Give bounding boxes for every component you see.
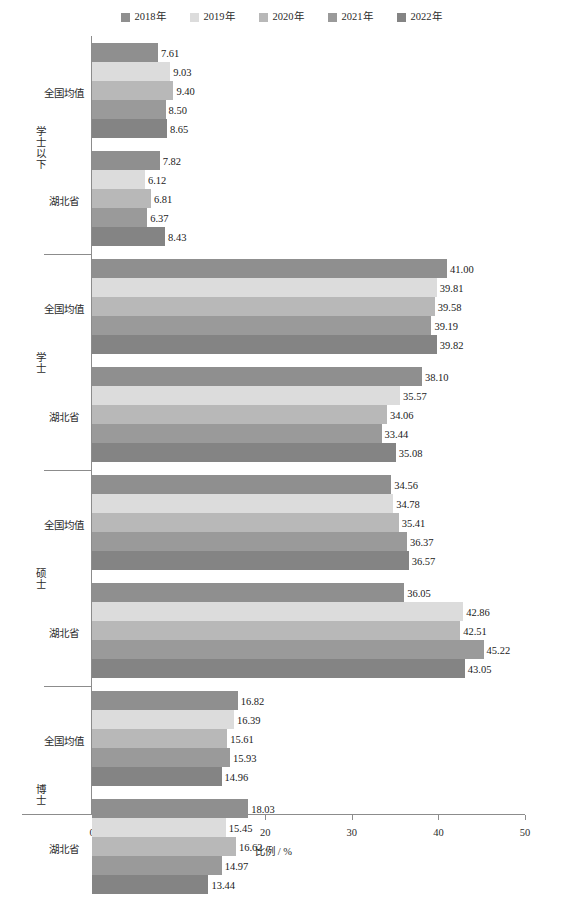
- legend-item[interactable]: 2021年: [328, 12, 373, 23]
- bar[interactable]: [92, 640, 484, 659]
- bar-row: 18.03: [92, 799, 542, 818]
- bar[interactable]: [92, 799, 248, 818]
- subgroup-label: 湖北省: [40, 193, 88, 208]
- bar[interactable]: [92, 691, 238, 710]
- bar-row: 14.97: [92, 856, 542, 875]
- bar-value-label: 16.39: [234, 714, 261, 725]
- bar-row: 8.65: [92, 119, 542, 138]
- bar[interactable]: [92, 43, 158, 62]
- bar-value-label: 18.03: [248, 803, 275, 814]
- bar-row: 39.19: [92, 316, 542, 335]
- bar-group: 博士全国均值16.8216.3915.6115.9314.96湖北省18.031…: [22, 686, 542, 902]
- legend-swatch-icon: [397, 13, 406, 22]
- bar[interactable]: [92, 367, 422, 386]
- legend-label: 2018年: [135, 12, 166, 23]
- bar-value-label: 7.61: [158, 47, 179, 58]
- bar-subgroup: 湖北省38.1035.5734.0633.4435.08: [22, 362, 542, 470]
- bar-row: 15.93: [92, 748, 542, 767]
- bar[interactable]: [92, 297, 435, 316]
- bar[interactable]: [92, 551, 409, 570]
- bar-row: 39.81: [92, 278, 542, 297]
- bar[interactable]: [92, 316, 431, 335]
- bar-value-label: 34.78: [393, 498, 420, 509]
- bar[interactable]: [92, 659, 465, 678]
- legend-item[interactable]: 2019年: [190, 12, 235, 23]
- bar[interactable]: [92, 405, 387, 424]
- bar-value-label: 9.40: [173, 85, 194, 96]
- bar[interactable]: [92, 227, 165, 246]
- bar-value-label: 15.61: [227, 733, 254, 744]
- bar-row: 41.00: [92, 259, 542, 278]
- bar[interactable]: [92, 583, 404, 602]
- bar-row: 42.51: [92, 621, 542, 640]
- legend-swatch-icon: [259, 13, 268, 22]
- bar-value-label: 8.50: [166, 104, 187, 115]
- bar-value-label: 42.51: [460, 625, 487, 636]
- bar-row: 15.45: [92, 818, 542, 837]
- bar[interactable]: [92, 748, 230, 767]
- bar-value-label: 38.10: [422, 371, 449, 382]
- bar-value-label: 6.12: [145, 174, 166, 185]
- bar-row: 36.37: [92, 532, 542, 551]
- bar-subgroup: 全国均值34.5634.7835.4136.3736.57: [22, 470, 542, 578]
- bar-value-label: 36.05: [404, 587, 431, 598]
- legend-label: 2020年: [273, 12, 304, 23]
- bar[interactable]: [92, 513, 399, 532]
- bar-row: 6.81: [92, 189, 542, 208]
- bar[interactable]: [92, 602, 463, 621]
- bar[interactable]: [92, 818, 226, 837]
- legend-swatch-icon: [121, 13, 130, 22]
- bar[interactable]: [92, 170, 145, 189]
- bar[interactable]: [92, 443, 396, 462]
- legend-swatch-icon: [328, 13, 337, 22]
- bar[interactable]: [92, 119, 167, 138]
- bar-row: 38.10: [92, 367, 542, 386]
- bar[interactable]: [92, 856, 222, 875]
- bar[interactable]: [92, 621, 460, 640]
- legend-label: 2021年: [342, 12, 373, 23]
- bar-row: 15.61: [92, 729, 542, 748]
- bar-value-label: 35.41: [399, 517, 426, 528]
- bar-value-label: 45.22: [484, 644, 511, 655]
- subgroup-label: 全国均值: [40, 301, 88, 316]
- bar[interactable]: [92, 335, 437, 354]
- legend-item[interactable]: 2020年: [259, 12, 304, 23]
- chart-page: 2018年2019年2020年2021年2022年 01020304050 学士…: [0, 0, 562, 905]
- bar[interactable]: [92, 100, 166, 119]
- legend-item[interactable]: 2018年: [121, 12, 166, 23]
- bar[interactable]: [92, 259, 447, 278]
- bar[interactable]: [92, 767, 222, 786]
- bar-row: 35.41: [92, 513, 542, 532]
- bar-value-label: 8.43: [165, 231, 186, 242]
- bar-subgroup: 全国均值41.0039.8139.5839.1939.82: [22, 254, 542, 362]
- bar-value-label: 39.58: [435, 301, 462, 312]
- bar[interactable]: [92, 475, 391, 494]
- bar-row: 8.43: [92, 227, 542, 246]
- bar[interactable]: [92, 875, 208, 894]
- bar[interactable]: [92, 532, 407, 551]
- bar-row: 33.44: [92, 424, 542, 443]
- bar-value-label: 35.57: [400, 390, 427, 401]
- bar[interactable]: [92, 62, 170, 81]
- bar[interactable]: [92, 189, 151, 208]
- bar-row: 9.03: [92, 62, 542, 81]
- bar[interactable]: [92, 424, 382, 443]
- x-axis-label: 比例 / %: [22, 843, 525, 858]
- bar[interactable]: [92, 151, 160, 170]
- bar[interactable]: [92, 710, 234, 729]
- bar-value-label: 35.08: [396, 447, 423, 458]
- bar[interactable]: [92, 81, 173, 100]
- bar-row: 8.50: [92, 100, 542, 119]
- bar[interactable]: [92, 386, 400, 405]
- subgroup-label: 全国均值: [40, 85, 88, 100]
- bar[interactable]: [92, 494, 393, 513]
- legend-item[interactable]: 2022年: [397, 12, 442, 23]
- bar-value-label: 41.00: [447, 263, 474, 274]
- bar-value-label: 33.44: [382, 428, 409, 439]
- bar-value-label: 6.81: [151, 193, 172, 204]
- bar-value-label: 15.93: [230, 752, 257, 763]
- bar[interactable]: [92, 729, 227, 748]
- legend-swatch-icon: [190, 13, 199, 22]
- bar[interactable]: [92, 278, 437, 297]
- bar[interactable]: [92, 208, 147, 227]
